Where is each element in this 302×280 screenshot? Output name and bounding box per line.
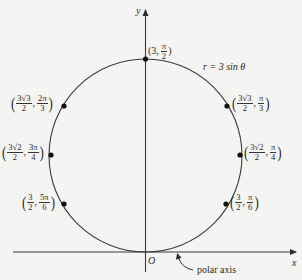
theta-den: 6: [39, 203, 50, 212]
point-label-pi-3: ( 3√32 , π3 ): [232, 94, 270, 113]
theta-fraction: 5π6: [39, 193, 50, 212]
theta-den: 2: [161, 52, 167, 61]
curve-equation-text: r = 3 sin θ: [203, 61, 245, 72]
point-label-5pi-6: ( 32 , 5π6 ): [22, 193, 55, 212]
point-label-pi-2: ( 3 , π2 ): [148, 42, 171, 61]
comma: ,: [33, 98, 36, 108]
paren-close: ): [265, 95, 269, 112]
paren-close: ): [51, 194, 55, 211]
comma: ,: [266, 147, 269, 157]
paren-open: (: [232, 95, 236, 112]
r-fraction: 3√32: [16, 94, 31, 113]
r-fraction: 3√22: [7, 143, 22, 162]
point-label-pi-4: ( 3√22 , π4 ): [244, 143, 282, 162]
point-theta-3pi-4: [48, 152, 53, 157]
point-theta-2pi-3: [61, 103, 66, 108]
r-fraction: 3√22: [249, 143, 264, 162]
point-theta-pi-4: [237, 152, 242, 157]
curve-equation-label: r = 3 sin θ: [203, 62, 245, 72]
point-label-pi-6: ( 32 , π6 ): [230, 193, 259, 212]
paren-open: (: [2, 144, 6, 161]
r-den: 2: [7, 153, 22, 162]
r-den: 2: [16, 104, 31, 113]
comma: ,: [243, 197, 246, 207]
paren-close: ): [49, 95, 53, 112]
point-label-2pi-3: ( 3√32 , 2π3 ): [11, 94, 53, 113]
paren-close: ): [254, 194, 258, 211]
theta-den: 4: [28, 153, 39, 162]
comma: ,: [35, 197, 38, 207]
r-den: 2: [249, 153, 264, 162]
comma: ,: [156, 46, 159, 56]
r-den: 2: [237, 104, 252, 113]
paren-open: (: [22, 194, 26, 211]
theta-fraction: π6: [247, 193, 253, 212]
r-den: 2: [235, 203, 241, 212]
theta-den: 3: [258, 104, 264, 113]
point-theta-5pi-6: [61, 201, 66, 206]
theta-den: 6: [247, 203, 253, 212]
y-axis-label: y: [136, 6, 140, 16]
theta-fraction: π2: [161, 42, 167, 61]
x-axis-label: x: [292, 258, 296, 268]
paren-close: ): [168, 46, 171, 56]
comma: ,: [254, 98, 257, 108]
paren-open: (: [244, 144, 248, 161]
point-theta-pi-3: [224, 103, 229, 108]
theta-fraction: π3: [258, 94, 264, 113]
theta-den: 3: [37, 104, 48, 113]
paren-open: (: [11, 95, 15, 112]
paren-open: (: [230, 194, 234, 211]
point-theta-pi-6: [223, 201, 228, 206]
theta-fraction: π4: [270, 143, 276, 162]
paren-close: ): [40, 144, 44, 161]
theta-den: 4: [270, 153, 276, 162]
polar-axis-label: polar axis: [197, 265, 236, 275]
point-label-3pi-4: ( 3√22 , 3π4 ): [2, 143, 44, 162]
r-fraction: 32: [27, 193, 33, 212]
origin-label: O: [148, 256, 155, 266]
r-den: 2: [27, 203, 33, 212]
r-fraction: 3√32: [237, 94, 252, 113]
theta-fraction: 3π4: [28, 143, 39, 162]
r-fraction: 32: [235, 193, 241, 212]
paren-close: ): [277, 144, 281, 161]
comma: ,: [24, 147, 27, 157]
theta-fraction: 2π3: [37, 94, 48, 113]
polar-axis-pointer: [178, 256, 193, 270]
